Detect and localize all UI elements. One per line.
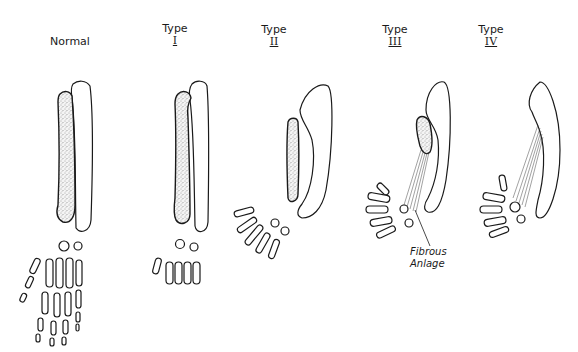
- metacarpal: [184, 262, 191, 284]
- phalanx: [76, 290, 81, 308]
- metacarpal: [234, 207, 255, 218]
- ulna: [189, 81, 208, 231]
- carpal-bone: [517, 215, 525, 223]
- metacarpal: [268, 239, 280, 260]
- roman-numeral: III: [375, 36, 415, 47]
- phalanx: [62, 337, 66, 345]
- roman-numeral: I: [155, 35, 195, 46]
- normal-hand: [19, 241, 82, 346]
- phalanx: [65, 292, 71, 316]
- roman-numeral: II: [254, 36, 294, 47]
- phalanx: [63, 320, 68, 334]
- metacarpal: [166, 262, 173, 284]
- heading-type-2: Type II: [254, 23, 294, 47]
- thumb-phalanx: [25, 276, 35, 289]
- carpal-bone: [59, 241, 69, 251]
- type-4-hand: [480, 175, 525, 239]
- ulna: [529, 82, 560, 218]
- type-1-hand: [152, 240, 200, 285]
- carpal-bone: [281, 227, 289, 235]
- metacarpal: [366, 206, 388, 213]
- ulna: [298, 85, 332, 218]
- phalanx: [50, 338, 54, 346]
- fibrous-anlage-label: Fibrous Anlage: [410, 246, 447, 270]
- metacarpal: [376, 225, 397, 239]
- metacarpal: [370, 216, 393, 227]
- radius: [416, 117, 432, 154]
- metacarpal: [480, 206, 502, 213]
- carpal-bone: [510, 202, 520, 212]
- thumb-phalanx: [29, 257, 41, 274]
- metacarpal: [484, 216, 507, 227]
- fibrous-anlage-fibers: [513, 125, 543, 207]
- phalanx: [76, 312, 80, 322]
- fibrous-anlage-line1: Fibrous: [410, 246, 447, 258]
- thumb-metacarpal: [152, 257, 162, 274]
- phalanx: [51, 321, 56, 335]
- phalanx: [42, 292, 48, 314]
- type-4-forearm: [513, 82, 560, 218]
- phalanx: [54, 293, 60, 317]
- roman-numeral: IV: [471, 36, 511, 47]
- carpal-bone: [400, 205, 408, 213]
- heading-type-4: Type IV: [471, 23, 511, 47]
- metacarpal: [46, 259, 53, 287]
- normal-forearm: [57, 81, 92, 231]
- phalanx: [38, 318, 43, 331]
- heading-normal: Normal: [40, 35, 100, 48]
- metacarpal: [66, 258, 73, 288]
- metacarpal: [193, 262, 200, 284]
- phalanx: [36, 334, 40, 342]
- radius: [287, 118, 299, 201]
- metacarpal: [56, 258, 63, 288]
- carpal-bone: [190, 243, 198, 251]
- heading-normal-text: Normal: [50, 35, 90, 48]
- metacarpal: [482, 192, 505, 203]
- carpal-bone: [74, 242, 82, 250]
- heading-type-1: Type I: [155, 22, 195, 46]
- carpal-bone: [271, 219, 279, 227]
- radial-deficiency-diagram: [0, 0, 578, 352]
- heading-type-3: Type III: [375, 23, 415, 47]
- carpal-bone: [405, 219, 413, 227]
- type-1-forearm: [174, 81, 209, 231]
- phalanx: [76, 324, 79, 331]
- metacarpal: [175, 262, 182, 284]
- thumb-phalanx: [19, 293, 27, 303]
- carpal-bone: [176, 240, 185, 249]
- radius: [174, 91, 191, 223]
- radius: [57, 92, 75, 223]
- metacarpal: [499, 175, 508, 192]
- type-2-hand: [234, 207, 289, 260]
- metacarpal: [489, 226, 510, 238]
- fibrous-anlage-line2: Anlage: [410, 258, 447, 270]
- fibrous-anlage-leader: [415, 210, 430, 246]
- type-3-hand: [366, 182, 413, 239]
- type-2-forearm: [287, 85, 332, 218]
- metacarpal: [76, 260, 82, 286]
